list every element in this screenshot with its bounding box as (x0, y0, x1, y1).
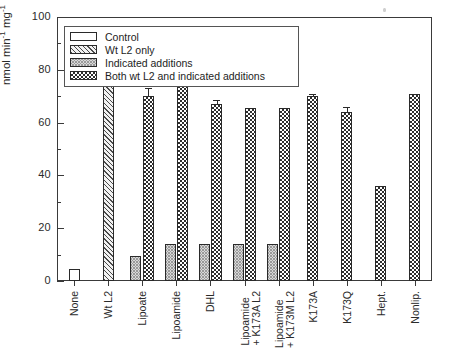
y-axis-label-sup2: -1 (0, 5, 7, 12)
legend-item: Indicated additions (70, 56, 293, 69)
bar (130, 256, 141, 281)
y-axis-tick-label: 100 (11, 10, 51, 22)
x-axis-tick-label: DHL (205, 291, 216, 312)
chart-legend: Control Wt L2 only Indicated additions B… (64, 26, 299, 87)
y-axis-tick-label: 20 (11, 221, 51, 233)
bar (307, 96, 318, 281)
x-axis-tick-label: None (69, 291, 80, 316)
legend-label: Indicated additions (105, 57, 193, 69)
y-axis-tick-label: 40 (11, 168, 51, 180)
x-axis-tick (245, 281, 246, 286)
x-axis-tick (74, 281, 75, 286)
x-axis-tick (176, 281, 177, 286)
legend-item: Both wt L2 and indicated additions (70, 69, 293, 82)
bar (375, 186, 386, 281)
x-axis-tick-label: Nonlip. (410, 291, 421, 324)
bar-chart-figure: 020406080100 nmol min-1 mg-1 NoneWt L2Li… (0, 0, 450, 358)
x-axis-tick-label: Hept. (376, 291, 387, 316)
x-axis-tick-label-line: Nonlip. (409, 291, 421, 324)
bar (103, 70, 114, 281)
bar (69, 269, 80, 281)
bar (409, 94, 420, 281)
x-axis-tick-label-line: None (68, 291, 80, 316)
legend-swatch-control-icon (70, 32, 97, 41)
bar (165, 244, 176, 281)
x-axis-tick-label-line: Lipoamide (239, 297, 251, 345)
y-axis-label-sup1: -1 (0, 31, 7, 38)
bar (211, 104, 222, 281)
x-axis-tick-label-line: DHL (204, 291, 216, 312)
x-axis-tick-label: K173Q (342, 291, 353, 324)
error-bar-cap (145, 88, 152, 89)
bar (341, 112, 352, 281)
legend-swatch-both-icon (70, 71, 97, 80)
legend-item: Wt L2 only (70, 43, 293, 56)
x-axis-tick (313, 281, 314, 286)
bar (245, 108, 256, 281)
error-bar (148, 88, 149, 96)
y-axis-tick-label: 0 (11, 274, 51, 286)
x-axis-tick-label-line: + K173M L2 (284, 291, 295, 348)
x-axis-tick-label: Lipoamide+ K173M L2 (274, 291, 295, 348)
x-axis-tick-label-line: K173Q (341, 291, 353, 324)
x-axis-tick-label-line: K173A (307, 291, 319, 323)
x-axis-tick-label: Wt L2 (103, 291, 114, 318)
x-axis-tick-label: Lipoate (137, 291, 148, 325)
y-axis-label: nmol min-1 mg-1 (0, 0, 12, 120)
legend-label: Both wt L2 and indicated additions (105, 70, 265, 82)
x-axis-tick-label-line: Wt L2 (102, 291, 114, 318)
x-axis-tick (142, 281, 143, 286)
legend-item: Control (70, 30, 293, 43)
bar (267, 244, 278, 281)
x-axis-tick-label-line: Hept. (375, 291, 387, 316)
bar (143, 96, 154, 281)
error-bar-cap (309, 94, 316, 95)
y-axis-tick-label: 60 (11, 116, 51, 128)
y-axis-label-base2: mg (0, 12, 12, 31)
y-axis-label-base1: nmol min (0, 38, 12, 85)
x-axis-tick (279, 281, 280, 286)
legend-label: Control (105, 31, 139, 43)
legend-swatch-wt-l2-icon (70, 45, 97, 54)
scan-artifact-speck (383, 8, 386, 12)
y-axis-tick-label: 80 (11, 63, 51, 75)
bar (233, 244, 244, 281)
y-axis-tick-major (57, 281, 64, 282)
x-axis-tick-label-line: Lipoamide (273, 299, 285, 347)
error-bar-cap (213, 100, 220, 101)
x-axis-tick-label-line: Lipoate (136, 291, 148, 325)
x-axis-tick (108, 281, 109, 286)
x-axis-tick (415, 281, 416, 286)
x-axis-tick-label: Lipoamide (171, 291, 182, 339)
x-axis-tick (347, 281, 348, 286)
x-axis-tick-label-line: Lipoamide (170, 291, 182, 339)
x-axis-tick-label: K173A (308, 291, 319, 323)
x-axis-tick-label-line: + K173A L2 (250, 291, 261, 346)
x-axis-tick (381, 281, 382, 286)
bar (177, 67, 188, 281)
bar (199, 244, 210, 281)
legend-swatch-indicated-additions-icon (70, 58, 97, 67)
legend-label: Wt L2 only (105, 44, 155, 56)
x-axis-tick-label: Lipoamide+ K173A L2 (240, 291, 261, 346)
error-bar-cap (343, 107, 350, 108)
x-axis-tick (210, 281, 211, 286)
bar (279, 108, 290, 281)
